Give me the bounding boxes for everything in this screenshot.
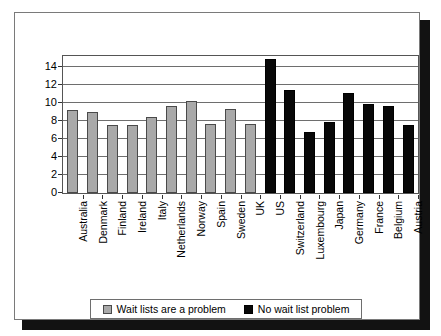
x-tick-mark-13	[339, 195, 340, 199]
x-tick-mark-1	[102, 195, 103, 199]
bar-austria	[403, 125, 414, 193]
bar-australia	[67, 110, 78, 193]
x-tick-label-sweden: Sweden	[236, 201, 247, 239]
y-tick-label-10: 10	[29, 97, 57, 108]
x-tick-mark-8	[241, 195, 242, 199]
bar-ireland	[127, 125, 138, 193]
chart-figure: 02468101214 AustraliaDenmarkFinlandIrela…	[14, 12, 420, 320]
y-tick-label-2: 2	[29, 169, 57, 180]
x-tick-mark-12	[319, 195, 320, 199]
x-tick-label-germany: Germany	[354, 201, 365, 244]
x-tick-label-belgium: Belgium	[393, 201, 404, 239]
x-tick-mark-6	[201, 195, 202, 199]
legend-swatch-gray	[103, 305, 112, 314]
bar-switzerland	[284, 90, 295, 193]
x-tick-label-netherlands: Netherlands	[176, 201, 187, 258]
legend-swatch-black	[244, 305, 253, 314]
y-tick-label-12: 12	[29, 79, 57, 90]
x-tick-mark-2	[122, 195, 123, 199]
x-tick-label-finland: Finland	[117, 201, 128, 235]
bar-spain	[205, 124, 216, 193]
x-tick-mark-10	[280, 195, 281, 199]
bar-luxembourg	[304, 132, 315, 193]
x-axis: AustraliaDenmarkFinlandIrelandItalyNethe…	[63, 195, 418, 283]
x-tick-mark-16	[398, 195, 399, 199]
y-tick-label-4: 4	[29, 151, 57, 162]
x-tick-mark-3	[142, 195, 143, 199]
x-tick-mark-11	[300, 195, 301, 199]
bar-denmark	[87, 112, 98, 193]
bar-germany	[343, 93, 354, 193]
bar-norway	[186, 101, 197, 193]
x-tick-label-uk: UK	[255, 201, 266, 216]
x-tick-mark-0	[83, 195, 84, 199]
bars-layer	[63, 56, 418, 193]
x-tick-mark-17	[418, 195, 419, 199]
x-tick-mark-9	[260, 195, 261, 199]
x-tick-label-australia: Australia	[78, 201, 89, 242]
y-tick-label-6: 6	[29, 133, 57, 144]
x-tick-mark-14	[359, 195, 360, 199]
bar-belgium	[383, 106, 394, 193]
chart-legend: Wait lists are a problemNo wait list pro…	[90, 299, 362, 319]
bar-sweden	[225, 109, 236, 193]
x-tick-mark-5	[181, 195, 182, 199]
bar-netherlands	[166, 106, 177, 193]
bar-italy	[146, 117, 157, 193]
legend-entry-0: Wait lists are a problem	[103, 303, 226, 315]
x-tick-label-denmark: Denmark	[98, 201, 109, 244]
bar-japan	[324, 122, 335, 193]
y-tick-label-8: 8	[29, 115, 57, 126]
x-tick-mark-15	[379, 195, 380, 199]
bar-uk	[245, 124, 256, 193]
legend-label-1: No wait list problem	[258, 303, 350, 315]
x-tick-label-ireland: Ireland	[137, 201, 148, 233]
bar-finland	[107, 125, 118, 193]
y-axis: 02468101214	[29, 49, 57, 201]
x-tick-label-us: US	[275, 201, 286, 216]
x-tick-label-luxembourg: Luxembourg	[315, 201, 326, 259]
x-tick-label-france: France	[374, 201, 385, 234]
x-tick-label-spain: Spain	[216, 201, 227, 228]
y-tick-label-0: 0	[29, 187, 57, 198]
legend-label-0: Wait lists are a problem	[117, 303, 226, 315]
x-tick-label-switzerland: Switzerland	[295, 201, 306, 255]
x-tick-mark-7	[221, 195, 222, 199]
x-tick-label-norway: Norway	[196, 201, 207, 237]
x-tick-mark-4	[162, 195, 163, 199]
y-tick-label-14: 14	[29, 61, 57, 72]
bar-france	[363, 104, 374, 193]
x-tick-label-austria: Austria	[413, 201, 424, 234]
x-tick-label-italy: Italy	[157, 201, 168, 220]
bar-us	[265, 59, 276, 193]
x-tick-label-japan: Japan	[334, 201, 345, 230]
legend-entry-1: No wait list problem	[244, 303, 350, 315]
